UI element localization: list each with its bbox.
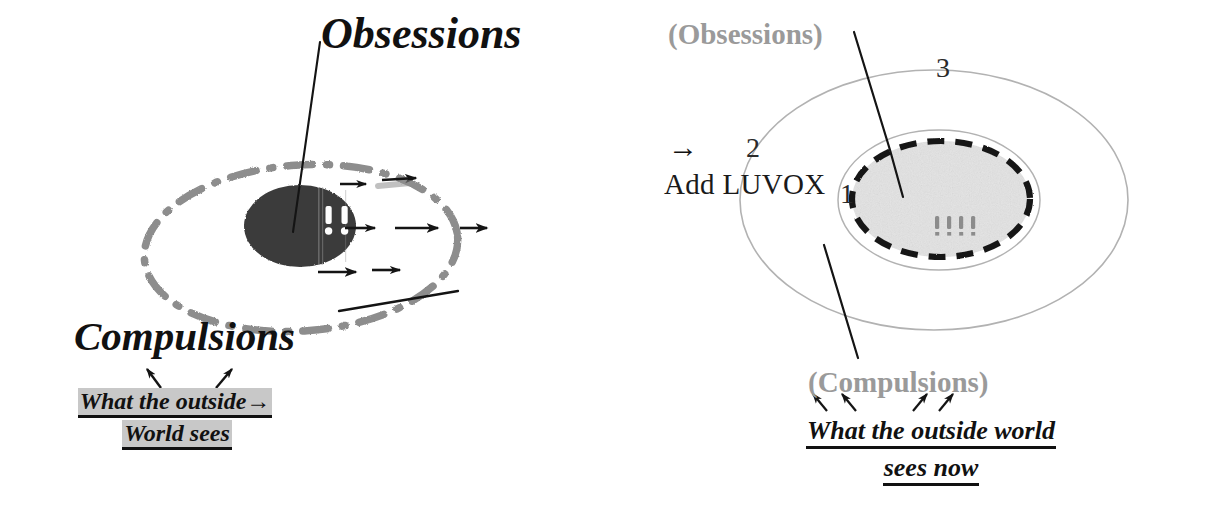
panel-after-treatment: (Obsessions) → Add LUVOX 1 2 3 (Compulsi…: [606, 0, 1212, 518]
obsession-core-ellipse: [244, 185, 356, 267]
compulsions-paren-label: (Compulsions): [808, 366, 989, 399]
compulsions-title: Compulsions: [74, 312, 295, 360]
add-luvox-label: Add LUVOX: [664, 168, 825, 201]
outside-world-now-caption: What the outside world sees now: [786, 416, 1076, 486]
panel-before-treatment: Obsessions Compulsions What the outside→…: [0, 0, 606, 518]
outside-world-line-1: What the outside→: [78, 388, 273, 418]
obsessions-title: Obsessions: [321, 8, 522, 59]
add-luvox-arrow-icon: →: [668, 132, 698, 162]
arrow-ghost-upper: [378, 183, 410, 186]
obsessions-paren-label: (Obsessions): [668, 18, 823, 51]
caption-uparrows-left: [147, 369, 232, 388]
compulsions-leader-line: [824, 245, 858, 358]
outside-world-caption: What the outside→ World sees: [62, 388, 292, 450]
outside-world-line-2: World sees: [122, 420, 232, 450]
outside-world-now-line-1: What the outside world: [806, 416, 1056, 449]
outward-arrow-row-3: [318, 270, 400, 272]
ring-number-1: 1: [840, 178, 854, 210]
ring-number-2: 2: [746, 132, 760, 164]
outside-world-now-line-2: sees now: [883, 453, 980, 486]
ring-number-3: 3: [936, 52, 950, 84]
